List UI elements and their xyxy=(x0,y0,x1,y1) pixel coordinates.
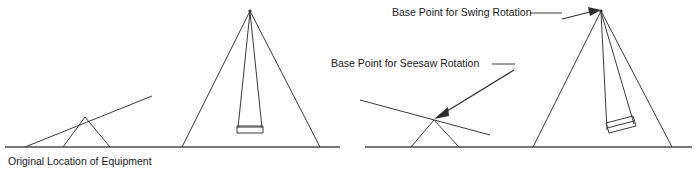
swing-original-rope-left xyxy=(238,12,250,128)
scene-original-position xyxy=(25,9,320,147)
original-location-caption: Original Location of Equipment xyxy=(8,155,152,167)
seesaw-rotation-callout: Base Point for Seesaw Rotation xyxy=(331,57,515,119)
swing-original xyxy=(182,9,320,147)
scene-rotated-position xyxy=(360,9,672,147)
swing-original-pivot-point xyxy=(248,9,251,12)
seesaw-rotated-support-right xyxy=(434,120,459,147)
seesaw-callout-arrow-head xyxy=(434,107,449,119)
seesaw-rotated-support-left xyxy=(411,120,434,147)
seesaw-original-support-right xyxy=(85,117,110,147)
seesaw-original-support-left xyxy=(63,117,85,147)
swing-rotated xyxy=(533,9,672,147)
original-location-label: Original Location of Equipment xyxy=(8,155,152,167)
seesaw-rotated-plank xyxy=(360,100,490,135)
swing-base-point-label: Base Point for Swing Rotation xyxy=(392,6,532,18)
swing-original-rope-right xyxy=(250,12,262,128)
seesaw-base-point-label: Base Point for Seesaw Rotation xyxy=(331,57,479,69)
seesaw-rotated xyxy=(360,100,490,147)
equipment-rotation-diagram: Base Point for Swing Rotation Base Point… xyxy=(0,0,698,171)
swing-rotation-callout: Base Point for Swing Rotation xyxy=(392,6,601,19)
seesaw-callout-arrow-shaft xyxy=(444,70,514,113)
swing-rotated-frame-left xyxy=(533,11,601,147)
diagram-canvas: Base Point for Swing Rotation Base Point… xyxy=(0,0,698,171)
seesaw-original xyxy=(25,96,152,147)
